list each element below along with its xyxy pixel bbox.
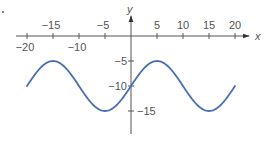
axes xyxy=(16,16,249,134)
y-tick-label: −5 xyxy=(114,55,127,67)
x-tick-label: 5 xyxy=(154,19,160,31)
x-tick-label: 20 xyxy=(229,19,241,31)
x-tick-label: −10 xyxy=(68,41,87,53)
x-axis-label: x xyxy=(254,30,261,42)
x-tick-label: 15 xyxy=(203,19,215,31)
x-tick-label: −20 xyxy=(16,41,35,53)
y-tick-label: −10 xyxy=(108,80,127,92)
sine-chart: −20−15−10−55101520 −5−10−15 x y xyxy=(0,0,275,147)
x-tick-label: 10 xyxy=(177,19,189,31)
x-tick-label: −15 xyxy=(42,19,61,31)
y-axis-label: y xyxy=(126,3,134,15)
y-tick-label: −15 xyxy=(137,105,156,117)
x-tick-label: −5 xyxy=(97,19,110,31)
